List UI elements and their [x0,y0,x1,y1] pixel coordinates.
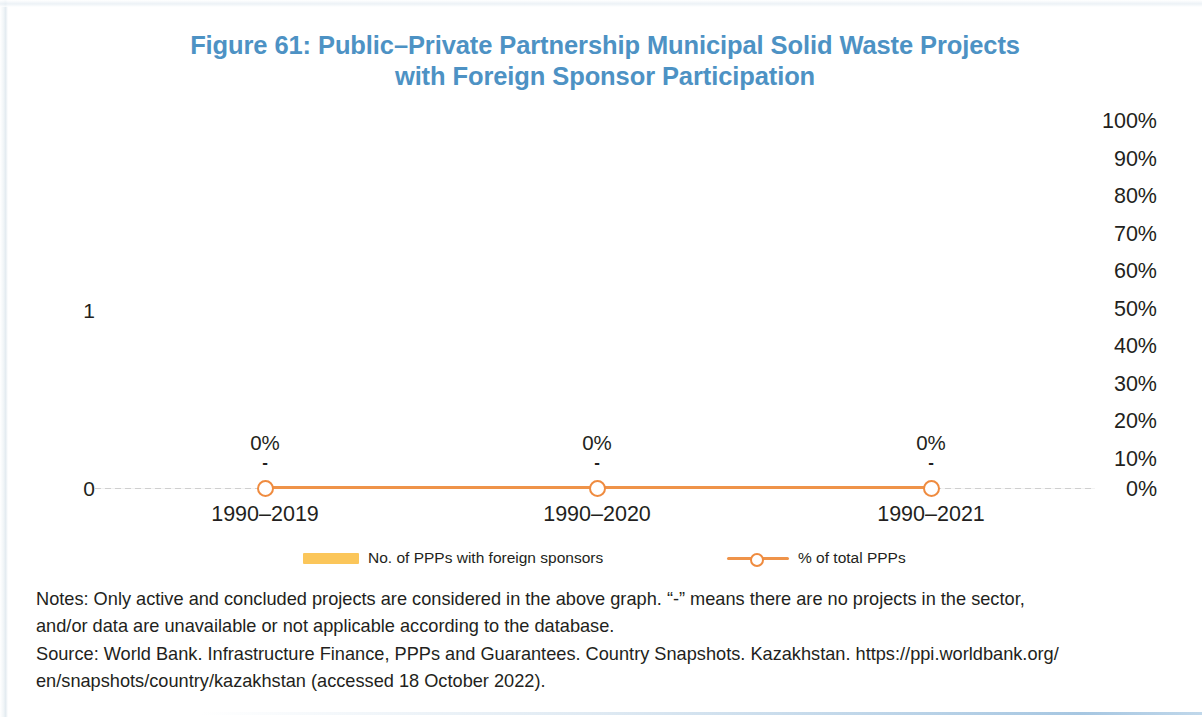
figure-title: Figure 61: Public–Private Partnership Mu… [140,30,1070,92]
data-point-marker-1990-2020[interactable] [589,480,606,497]
data-label-pct-1990-2020: 0% [582,432,612,454]
data-label-pct-1990-2019: 0% [250,432,280,454]
legend-label-bars: No. of PPPs with foreign sponsors [368,549,603,567]
legend-line-marker-icon [727,551,789,565]
figure-page: Figure 61: Public–Private Partnership Mu… [0,0,1202,717]
x-axis-label-1990-2020: 1990–2020 [543,503,651,526]
data-point-marker-1990-2021[interactable] [923,480,940,497]
data-label-count-1990-2019: - [262,458,268,468]
data-point-marker-1990-2019[interactable] [257,480,274,497]
chart-canvas: 1 0 100% 90% 80% 70% 60% 50% 40% 30% 20%… [0,100,1202,550]
left-axis-tick-0: 0 [83,478,95,499]
chart-legend: No. of PPPs with foreign sponsors % of t… [0,546,1202,572]
left-axis-tick-1: 1 [83,300,95,321]
source-line-2: en/snapshots/country/kazakhstan (accesse… [36,668,1176,695]
series-line-segment-2 [597,486,931,489]
figure-title-line-2: with Foreign Sponsor Participation [140,61,1070,92]
figure-title-line-1: Figure 61: Public–Private Partnership Mu… [140,30,1070,61]
legend-item-bars[interactable]: No. of PPPs with foreign sponsors [303,546,603,570]
x-axis-label-1990-2019: 1990–2019 [211,503,319,526]
left-axis: 1 0 [40,100,95,500]
source-line-1: Source: World Bank. Infrastructure Finan… [36,641,1176,668]
plot-area: 0% - 0% - 0% - 1990–2019 1990–2020 1990–… [95,100,1095,500]
notes-line-1: Notes: Only active and concluded project… [36,586,1176,613]
notes-line-2: and/or data are unavailable or not appli… [36,613,1176,640]
legend-label-line: % of total PPPs [798,549,906,567]
x-axis-label-1990-2021: 1990–2021 [877,503,985,526]
legend-item-line[interactable]: % of total PPPs [727,546,906,570]
data-label-count-1990-2021: - [928,458,934,468]
legend-bar-swatch-icon [303,553,359,564]
figure-footnotes: Notes: Only active and concluded project… [36,586,1176,695]
data-label-count-1990-2020: - [594,458,600,468]
data-label-pct-1990-2021: 0% [916,432,946,454]
